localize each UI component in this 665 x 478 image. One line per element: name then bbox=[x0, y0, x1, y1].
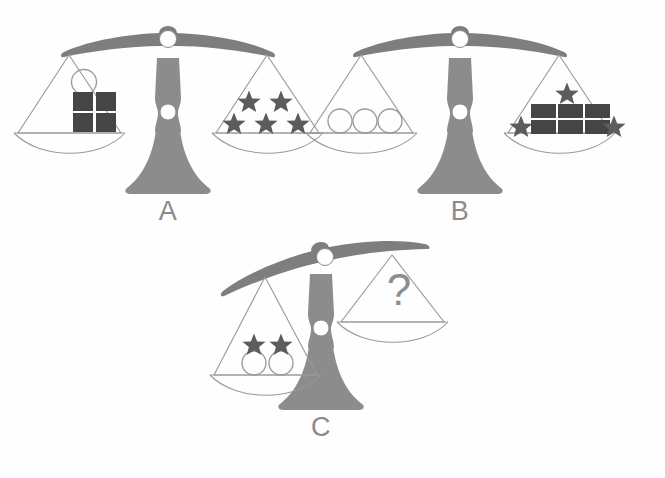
scale-b-stand bbox=[417, 58, 502, 194]
scale-c-pivot bbox=[317, 249, 334, 266]
square bbox=[96, 113, 116, 132]
balance-puzzle-image: A bbox=[0, 0, 665, 478]
star bbox=[222, 113, 245, 135]
star bbox=[242, 334, 265, 356]
scale-b-base bbox=[417, 130, 502, 194]
scale-b-left-pan bbox=[306, 55, 417, 153]
scale-a-stand bbox=[125, 58, 210, 194]
circle bbox=[269, 351, 293, 375]
balance-scales-illustration: A bbox=[0, 0, 665, 478]
scale-c-left-stars bbox=[242, 334, 292, 356]
scale-a-left-squares bbox=[73, 92, 116, 132]
scale-a-left-circle bbox=[72, 70, 97, 95]
star bbox=[269, 91, 292, 113]
square bbox=[558, 120, 583, 134]
square bbox=[96, 92, 116, 111]
scale-c-label: C bbox=[311, 412, 331, 442]
scale-a-base bbox=[125, 130, 210, 194]
scale-b: B bbox=[306, 26, 626, 226]
circle bbox=[353, 109, 377, 133]
square bbox=[73, 92, 93, 111]
scale-c-unknown-question-mark: ? bbox=[387, 265, 411, 314]
scale-b-pivot bbox=[452, 31, 469, 48]
square bbox=[585, 104, 610, 118]
scale-c-column bbox=[308, 274, 334, 348]
scale-a-right-pan bbox=[212, 55, 323, 153]
circle bbox=[242, 351, 266, 375]
circle bbox=[378, 109, 402, 133]
star bbox=[237, 91, 260, 113]
square bbox=[585, 120, 610, 134]
scale-b-label: B bbox=[451, 196, 470, 226]
circle bbox=[328, 109, 352, 133]
scale-b-left-circles bbox=[328, 109, 402, 133]
scale-a-lower-pivot bbox=[160, 104, 176, 120]
scale-b-lower-pivot bbox=[452, 104, 468, 120]
scale-c-lower-pivot bbox=[313, 320, 329, 336]
star bbox=[286, 113, 309, 135]
square bbox=[73, 113, 93, 132]
scale-a-pivot bbox=[160, 31, 177, 48]
square bbox=[531, 120, 556, 134]
star bbox=[509, 116, 532, 138]
scale-a-right-stars bbox=[222, 91, 309, 135]
scale-b-column bbox=[447, 58, 473, 132]
square bbox=[531, 104, 556, 118]
star bbox=[555, 83, 578, 105]
star bbox=[269, 334, 292, 356]
scale-b-right-squares bbox=[531, 104, 610, 134]
star bbox=[254, 113, 277, 135]
scale-a-column bbox=[155, 58, 181, 132]
scale-c-left-circles bbox=[242, 351, 293, 375]
scale-c: ? C bbox=[210, 218, 448, 442]
scale-a-label: A bbox=[159, 196, 178, 226]
scale-a: A bbox=[14, 26, 323, 226]
square bbox=[558, 104, 583, 118]
